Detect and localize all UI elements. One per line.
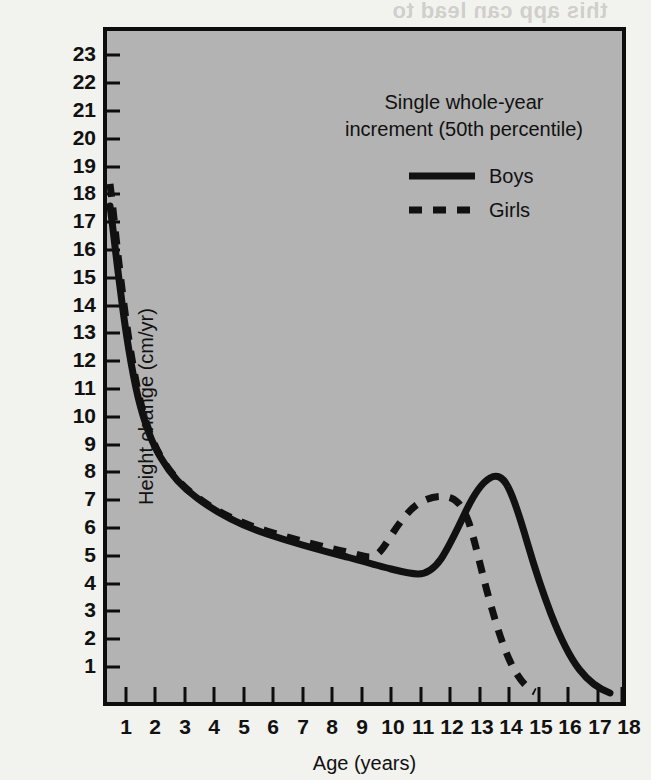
y-tick-13: 13 [36, 321, 96, 342]
y-tick-11: 11 [36, 377, 96, 398]
chart-legend: Boys Girls [407, 159, 607, 227]
x-tick-15: 15 [529, 716, 552, 737]
y-tick-10: 10 [36, 405, 96, 426]
y-tick-4: 4 [36, 572, 96, 593]
y-axis-tick-labels: 23 22 21 20 19 18 17 16 15 14 13 12 11 1… [30, 0, 96, 780]
y-tick-14: 14 [36, 294, 96, 315]
annotation-line-1: Single whole-year [319, 89, 609, 116]
y-tick-2: 2 [36, 627, 96, 648]
chart-annotation: Single whole-year increment (50th percen… [319, 89, 609, 143]
y-axis-title: Height change (cm/yr) [135, 267, 158, 547]
x-tick-18: 18 [617, 716, 640, 737]
x-tick-16: 16 [558, 716, 581, 737]
y-tick-19: 19 [36, 155, 96, 176]
y-tick-5: 5 [36, 544, 96, 565]
x-tick-7: 7 [297, 716, 309, 737]
x-tick-12: 12 [440, 716, 463, 737]
growth-velocity-chart: 23 22 21 20 19 18 17 16 15 14 13 12 11 1… [0, 0, 651, 780]
y-tick-16: 16 [36, 238, 96, 259]
y-tick-1: 1 [36, 655, 96, 676]
series-line-girls [110, 184, 535, 692]
x-tick-5: 5 [238, 716, 250, 737]
y-tick-12: 12 [36, 349, 96, 370]
solid-line-swatch-icon [407, 166, 477, 186]
y-tick-9: 9 [36, 433, 96, 454]
y-tick-18: 18 [36, 182, 96, 203]
x-axis-ticks [126, 687, 622, 702]
y-tick-22: 22 [36, 71, 96, 92]
y-axis-ticks [107, 55, 120, 667]
y-tick-17: 17 [36, 210, 96, 231]
y-tick-3: 3 [36, 599, 96, 620]
x-tick-13: 13 [470, 716, 493, 737]
x-tick-8: 8 [326, 716, 338, 737]
x-axis-title: Age (years) [103, 752, 626, 775]
y-tick-7: 7 [36, 488, 96, 509]
y-tick-20: 20 [36, 127, 96, 148]
x-tick-14: 14 [499, 716, 522, 737]
legend-entry-girls: Girls [407, 193, 607, 227]
x-tick-6: 6 [267, 716, 279, 737]
x-tick-1: 1 [120, 716, 132, 737]
y-tick-8: 8 [36, 460, 96, 481]
y-tick-23: 23 [36, 43, 96, 64]
y-tick-21: 21 [36, 99, 96, 120]
x-axis-tick-labels: 1 2 3 4 5 6 7 8 9 10 11 12 13 14 15 16 1… [0, 716, 651, 744]
plot-area: Single whole-year increment (50th percen… [103, 27, 626, 706]
x-tick-2: 2 [149, 716, 161, 737]
x-tick-4: 4 [208, 716, 220, 737]
legend-label-boys: Boys [489, 165, 533, 188]
x-tick-10: 10 [381, 716, 404, 737]
series-line-boys [110, 206, 610, 693]
annotation-line-2: increment (50th percentile) [319, 116, 609, 143]
y-tick-15: 15 [36, 266, 96, 287]
x-tick-9: 9 [356, 716, 368, 737]
y-tick-6: 6 [36, 516, 96, 537]
x-tick-17: 17 [588, 716, 611, 737]
legend-label-girls: Girls [489, 199, 530, 222]
legend-entry-boys: Boys [407, 159, 607, 193]
x-tick-3: 3 [179, 716, 191, 737]
x-tick-11: 11 [412, 716, 434, 737]
dashed-line-swatch-icon [407, 200, 477, 220]
